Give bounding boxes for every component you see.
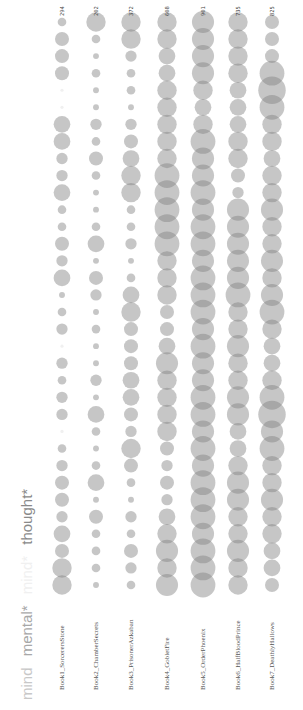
bubble[interactable]: [127, 530, 136, 539]
bubble[interactable]: [92, 69, 101, 78]
bubble[interactable]: [228, 507, 247, 526]
bubble[interactable]: [56, 323, 67, 334]
bubble[interactable]: [127, 222, 136, 231]
bubble[interactable]: [157, 132, 176, 151]
bubble[interactable]: [93, 582, 99, 588]
bubble[interactable]: [191, 573, 216, 598]
bubble[interactable]: [264, 355, 281, 372]
bubble[interactable]: [93, 190, 99, 196]
bubble[interactable]: [125, 426, 136, 437]
bubble[interactable]: [93, 207, 99, 213]
bubble[interactable]: [228, 29, 247, 48]
bubble[interactable]: [262, 524, 281, 543]
bubble[interactable]: [124, 407, 138, 421]
bubble[interactable]: [125, 119, 136, 130]
bubble[interactable]: [228, 132, 247, 151]
bubble[interactable]: [264, 543, 281, 560]
bubble[interactable]: [127, 274, 136, 283]
bubble[interactable]: [121, 439, 140, 458]
bubble[interactable]: [123, 389, 140, 406]
bubble[interactable]: [228, 302, 247, 321]
bubble[interactable]: [56, 511, 67, 522]
bubble[interactable]: [228, 63, 247, 82]
bubble[interactable]: [55, 544, 69, 558]
bubble[interactable]: [124, 134, 138, 148]
bubble[interactable]: [89, 151, 103, 165]
bubble[interactable]: [56, 170, 67, 181]
bubble[interactable]: [55, 32, 69, 46]
bubble[interactable]: [262, 115, 281, 134]
bubble[interactable]: [88, 235, 105, 252]
bubble[interactable]: [230, 116, 247, 133]
bubble[interactable]: [160, 476, 174, 490]
bubble[interactable]: [52, 575, 71, 594]
bubble[interactable]: [157, 371, 176, 390]
bubble[interactable]: [262, 166, 281, 185]
bubble[interactable]: [124, 322, 138, 336]
bubble[interactable]: [55, 493, 69, 507]
bubble[interactable]: [54, 270, 71, 287]
bubble[interactable]: [193, 81, 212, 100]
bubble[interactable]: [93, 87, 99, 93]
bubble[interactable]: [160, 322, 174, 336]
bubble[interactable]: [89, 271, 103, 285]
bubble[interactable]: [56, 153, 67, 164]
bubble[interactable]: [58, 444, 67, 453]
legend-item-mind[interactable]: mind: [18, 667, 35, 700]
bubble[interactable]: [157, 388, 176, 407]
bubble[interactable]: [159, 508, 176, 525]
bubble[interactable]: [123, 287, 140, 304]
bubble[interactable]: [128, 497, 134, 503]
bubble[interactable]: [123, 372, 140, 389]
bubble[interactable]: [228, 46, 247, 65]
bubble[interactable]: [92, 547, 101, 556]
bubble[interactable]: [157, 29, 176, 48]
bubble[interactable]: [90, 119, 101, 130]
bubble[interactable]: [228, 149, 247, 168]
bubble[interactable]: [55, 476, 69, 490]
bubble[interactable]: [264, 560, 281, 577]
bubble[interactable]: [227, 403, 249, 425]
bubble[interactable]: [93, 53, 99, 59]
bubble[interactable]: [265, 578, 279, 592]
bubble[interactable]: [125, 511, 136, 522]
bubble[interactable]: [93, 258, 99, 264]
bubble[interactable]: [161, 460, 172, 471]
bubble[interactable]: [262, 507, 281, 526]
bubble[interactable]: [93, 343, 99, 349]
bubble[interactable]: [88, 474, 105, 491]
bubble[interactable]: [93, 309, 99, 315]
bubble[interactable]: [159, 338, 176, 355]
bubble[interactable]: [58, 222, 67, 231]
bubble[interactable]: [264, 338, 281, 355]
bubble[interactable]: [228, 575, 247, 594]
bubble[interactable]: [92, 564, 101, 573]
bubble[interactable]: [262, 217, 281, 236]
bubble[interactable]: [125, 238, 136, 249]
bubble[interactable]: [92, 35, 101, 44]
bubble[interactable]: [228, 558, 247, 577]
bubble[interactable]: [92, 325, 101, 334]
bubble[interactable]: [157, 251, 176, 270]
bubble[interactable]: [262, 319, 281, 338]
bubble[interactable]: [127, 478, 136, 487]
bubble[interactable]: [58, 18, 67, 27]
bubble[interactable]: [56, 409, 67, 420]
bubble[interactable]: [121, 29, 140, 48]
bubble[interactable]: [232, 187, 243, 198]
bubble[interactable]: [92, 461, 101, 470]
bubble[interactable]: [159, 48, 176, 65]
bubble[interactable]: [127, 581, 136, 590]
bubble[interactable]: [55, 49, 69, 63]
bubble[interactable]: [90, 289, 101, 300]
bubble[interactable]: [52, 558, 71, 577]
bubble[interactable]: [60, 430, 63, 433]
bubble[interactable]: [157, 405, 176, 424]
bubble[interactable]: [124, 459, 138, 473]
bubble[interactable]: [93, 446, 99, 452]
bubble[interactable]: [125, 50, 136, 61]
bubble[interactable]: [124, 544, 138, 558]
bubble[interactable]: [161, 494, 172, 505]
bubble[interactable]: [93, 497, 99, 503]
bubble[interactable]: [93, 394, 99, 400]
